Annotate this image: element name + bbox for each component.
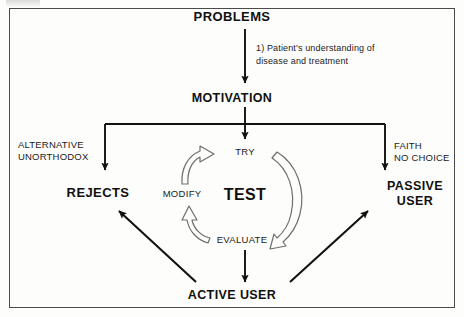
label-alternative-unorthodox: ALTERNATIVE UNORTHODOX	[18, 139, 104, 164]
cycle-label-modify: MODIFY	[150, 188, 214, 199]
node-problems: PROBLEMS	[172, 10, 292, 25]
cycle-label-evaluate: EVALUATE	[204, 234, 280, 245]
node-motivation: MOTIVATION	[172, 91, 292, 105]
diagram-page: PROBLEMS 1) Patient's understanding of d…	[0, 0, 464, 317]
scan-artifact	[6, 0, 40, 7]
node-active-user: ACTIVE USER	[166, 288, 298, 302]
node-test: TEST	[202, 186, 288, 204]
annotation-patient-understanding: 1) Patient's understanding of disease an…	[256, 42, 402, 68]
label-faith-no-choice: FAITH NO CHOICE	[394, 140, 464, 165]
node-passive-user: PASSIVE USER	[372, 179, 458, 209]
node-rejects: REJECTS	[48, 186, 148, 201]
cycle-label-try: TRY	[214, 146, 276, 157]
